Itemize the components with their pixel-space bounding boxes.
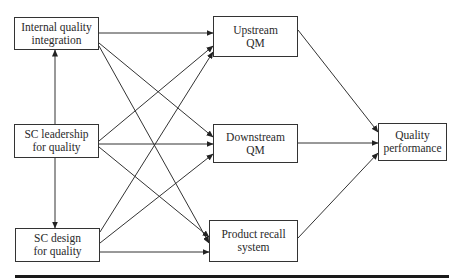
node-label-line1: Upstream xyxy=(233,24,278,37)
node-label-line1: Downstream xyxy=(226,131,285,144)
node-downstream-qm: Downstream QM xyxy=(213,124,298,163)
node-product-recall-system: Product recall system xyxy=(209,220,298,262)
bottom-rule-divider xyxy=(15,275,449,278)
node-label-line2: performance xyxy=(383,142,441,155)
node-label-line1: SC design xyxy=(33,232,81,245)
arrow-upstream-to-performance xyxy=(298,30,378,132)
node-internal-quality-integration: Internal quality integration xyxy=(14,17,99,50)
diagram: Internal quality integration SC leadersh… xyxy=(0,0,461,279)
node-label-line2: for quality xyxy=(24,141,88,154)
node-sc-leadership-for-quality: SC leadership for quality xyxy=(14,124,99,158)
node-quality-performance: Quality performance xyxy=(378,123,447,161)
node-label-line1: Internal quality xyxy=(21,21,92,34)
arrow-recall-to-performance xyxy=(298,153,378,238)
node-label-line2: for quality xyxy=(33,245,81,258)
node-label-line2: QM xyxy=(233,37,278,50)
node-label-line1: Quality xyxy=(383,129,441,142)
node-label-line2: integration xyxy=(21,34,92,47)
node-sc-design-for-quality: SC design for quality xyxy=(15,228,100,262)
node-label-line2: system xyxy=(221,241,285,254)
arrow-leadership-to-recall xyxy=(99,147,209,237)
arrow-design-to-downstream xyxy=(100,154,213,243)
node-label-line1: Product recall xyxy=(221,228,285,241)
node-upstream-qm: Upstream QM xyxy=(213,16,298,57)
node-label-line2: QM xyxy=(226,144,285,157)
arrow-leadership-to-upstream xyxy=(99,46,213,141)
arrow-internal-to-downstream xyxy=(99,43,213,137)
node-label-line1: SC leadership xyxy=(24,128,88,141)
